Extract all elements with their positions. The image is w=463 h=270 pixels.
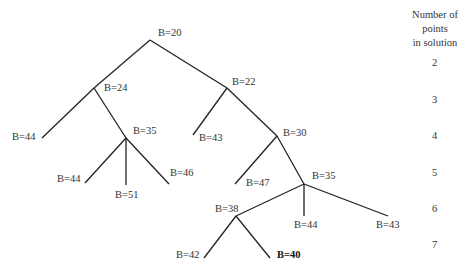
levels-header-line2: in solution xyxy=(400,36,463,50)
node-b43-leaf: B=43 xyxy=(199,132,222,144)
level-label: 4 xyxy=(432,130,437,141)
node-b42-leaf: B=42 xyxy=(176,249,199,261)
level-label: 7 xyxy=(432,239,437,250)
node-b44-leaf: B=44 xyxy=(12,131,35,143)
level-label: 3 xyxy=(432,94,437,105)
levels-header: Number of points in solution xyxy=(400,8,463,50)
node-root: B=20 xyxy=(158,27,181,39)
node-b44-leaf: B=44 xyxy=(57,173,80,185)
level-label: 5 xyxy=(432,167,437,178)
level-label: 2 xyxy=(432,57,437,68)
node-b46-leaf: B=46 xyxy=(170,167,193,179)
node-b38: B=38 xyxy=(215,203,238,215)
node-b43-leaf: B=43 xyxy=(376,219,399,231)
node-b30: B=30 xyxy=(283,127,306,139)
node-b24: B=24 xyxy=(104,82,127,94)
node-b51-leaf: B=51 xyxy=(115,189,138,201)
node-b44-leaf: B=44 xyxy=(294,219,317,231)
node-b40-optimal: B=40 xyxy=(277,249,301,261)
node-b35-right: B=35 xyxy=(312,170,335,182)
node-b22: B=22 xyxy=(232,76,255,88)
node-b47-leaf: B=47 xyxy=(246,177,269,189)
levels-header-line1: Number of points xyxy=(400,8,463,36)
level-label: 6 xyxy=(432,203,437,214)
node-b35-left: B=35 xyxy=(133,125,156,137)
